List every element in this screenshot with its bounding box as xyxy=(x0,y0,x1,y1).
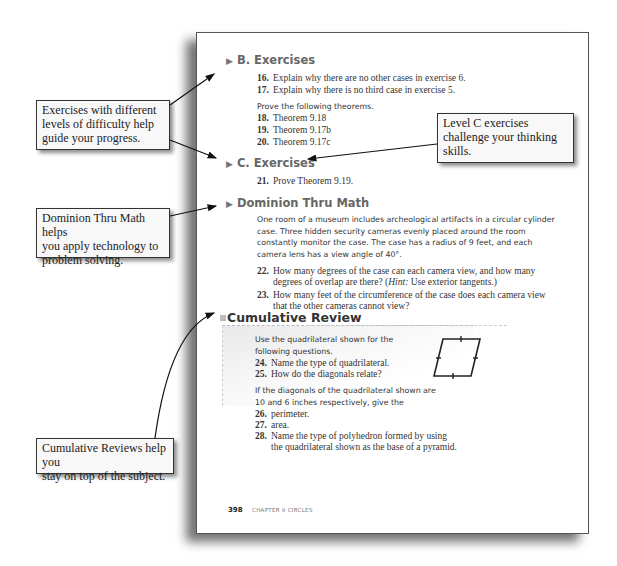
callout-arrows xyxy=(0,0,617,566)
